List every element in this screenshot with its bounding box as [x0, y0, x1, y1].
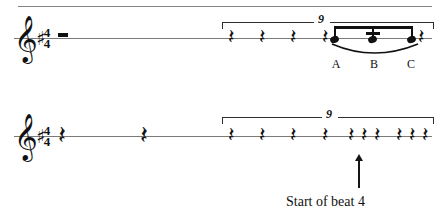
quarter-rest-1: 𝄽 [58, 122, 66, 148]
eighth-rest-3: 𝄽 [290, 125, 296, 146]
time-signature: 4 4 [40, 27, 54, 49]
tuplet-bracket-left-hook [222, 117, 223, 124]
eighth-rest-9: 𝄽 [409, 125, 415, 146]
eighth-rest-8: 𝄽 [396, 125, 402, 146]
tuplet-bracket-left-hook [222, 22, 223, 29]
scan-artifact-line [18, 6, 432, 7]
treble-clef-icon: 𝄞 [14, 18, 38, 58]
tuplet-bracket-line-right [338, 117, 434, 118]
eighth-rest-7: 𝄽 [374, 125, 380, 146]
eighth-rest-2: 𝄽 [259, 125, 265, 146]
eighth-rest-1: 𝄽 [228, 27, 234, 48]
tuplet-bracket: 9 [222, 108, 434, 120]
staff-line [14, 136, 432, 137]
tuplet-number: 9 [326, 108, 332, 120]
time-signature-denominator: 4 [40, 38, 54, 49]
staff-system-1: 𝄞 ♯ 4 4 𝄽 𝄽 𝄽 𝄽 𝄽 9 [0, 8, 441, 98]
time-signature: 4 4 [40, 125, 54, 147]
eighth-rest-10: 𝄽 [422, 125, 428, 146]
eighth-rest-6: 𝄽 [361, 125, 367, 146]
tuplet-bracket-line-left [222, 117, 322, 118]
eighth-rest-4: 𝄽 [322, 125, 328, 146]
tuplet-bracket-right-hook [433, 117, 434, 124]
time-signature-denominator: 4 [40, 136, 54, 147]
eighth-rest-5: 𝄽 [348, 125, 354, 146]
tuplet-bracket-line-left [222, 22, 314, 23]
tuplet-bracket-line-right [330, 22, 434, 23]
eighth-rest-1: 𝄽 [228, 125, 234, 146]
eighth-rest-2: 𝄽 [259, 27, 265, 48]
arrow-shaft [358, 160, 360, 188]
note-label-b: B [367, 58, 381, 70]
tuplet-bracket: 9 [222, 13, 434, 25]
eighth-rest-3: 𝄽 [290, 27, 296, 48]
tuplet-bracket-right-hook [433, 22, 434, 29]
tuplet-number: 9 [318, 13, 324, 25]
note-label-c: C [404, 58, 418, 70]
beamed-note-group [334, 26, 416, 46]
note-label-a: A [329, 58, 343, 70]
half-rest [58, 33, 68, 37]
staff-system-2: 𝄞 ♯ 4 4 𝄽 𝄽 9 𝄽 𝄽 𝄽 𝄽 𝄽 𝄽 𝄽 𝄽 𝄽 𝄽 [0, 106, 441, 196]
treble-clef-icon: 𝄞 [14, 116, 38, 156]
annotation-caption: Start of beat 4 [286, 194, 365, 210]
quarter-rest-2: 𝄽 [140, 122, 148, 148]
